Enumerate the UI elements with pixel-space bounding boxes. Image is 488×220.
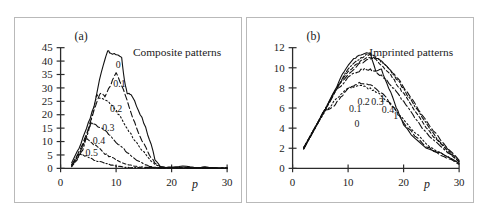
y-tick-label: 40 — [42, 55, 53, 67]
x-axis-label: p — [423, 177, 430, 191]
curve-label-1: 1 — [393, 110, 398, 121]
x-tick-label: 10 — [343, 176, 354, 188]
y-tick-label: 45 — [42, 41, 53, 53]
y-tick-label: 25 — [42, 95, 53, 107]
x-tick-label: 30 — [222, 176, 233, 188]
y-tick-label: 10 — [274, 62, 285, 74]
y-tick-label: 30 — [42, 82, 53, 94]
panel-b-plot: 0246810120102030p(b)Imprinted patterns00… — [247, 18, 473, 202]
y-tick-label: 6 — [279, 102, 285, 114]
y-tick-label: 12 — [274, 41, 285, 53]
panel-title: Imprinted patterns — [369, 46, 453, 58]
curve-0p3 — [304, 68, 459, 162]
panel-title: Composite patterns — [133, 46, 222, 58]
y-tick-label: 5 — [47, 149, 53, 161]
x-tick-label: 10 — [111, 176, 122, 188]
curve-label-1: 1 — [380, 93, 385, 104]
y-tick-label: 8 — [279, 82, 285, 94]
curve-label-0: 0 — [116, 59, 121, 70]
curve-label-0p5: 0.5 — [85, 147, 97, 158]
x-tick-label: 30 — [454, 176, 465, 188]
curve-label-0p3: 0.3 — [102, 122, 114, 133]
x-tick-label: 20 — [166, 176, 177, 188]
curve-label-0p2: 0.2 — [110, 103, 122, 114]
y-tick-label: 0 — [47, 162, 53, 174]
y-tick-label: 2 — [279, 142, 284, 154]
panel-a-plot: 0510152025303540450102030p(a)Composite p… — [15, 18, 241, 202]
y-tick-label: 0 — [279, 162, 285, 174]
curve-label-0p1: 0.1 — [113, 78, 125, 89]
axis-lines — [293, 48, 460, 169]
x-tick-label: 20 — [398, 176, 409, 188]
x-tick-label: 0 — [58, 176, 64, 188]
curve-label-0: 0 — [355, 118, 360, 129]
curve-label-0p4: 0.4 — [93, 135, 105, 146]
x-tick-label: 0 — [290, 176, 296, 188]
panel-b-imprinted-patterns: 0246810120102030p(b)Imprinted patterns00… — [246, 17, 474, 203]
curve-label-0p2: 0.2 — [357, 96, 369, 107]
x-axis-label: p — [191, 177, 198, 191]
panel-a-composite-patterns: 0510152025303540450102030p(a)Composite p… — [14, 17, 242, 203]
y-tick-label: 15 — [42, 122, 53, 134]
figure-container: 0510152025303540450102030p(a)Composite p… — [0, 0, 488, 220]
y-tick-label: 10 — [42, 135, 53, 147]
y-tick-label: 20 — [42, 108, 53, 120]
y-tick-label: 35 — [42, 68, 53, 80]
panel-tag: (a) — [74, 29, 87, 43]
panel-tag: (b) — [306, 29, 320, 43]
y-tick-label: 4 — [279, 122, 285, 134]
